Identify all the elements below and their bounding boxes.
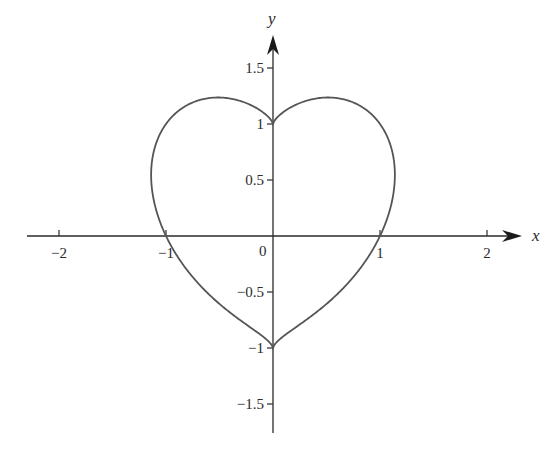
y-tick-label: −1.5	[237, 396, 264, 412]
axes: x y 0 −2−112 1.510.5−0.5−1−1.5	[27, 9, 540, 433]
x-ticks: −2−112	[51, 230, 491, 261]
y-tick-label: −1	[248, 340, 264, 356]
y-axis-label: y	[266, 9, 276, 28]
x-axis-label: x	[531, 226, 540, 245]
x-tick-label: 2	[483, 245, 491, 261]
y-tick-label: 1.5	[245, 60, 264, 76]
heart-curve-plot: x y 0 −2−112 1.510.5−0.5−1−1.5	[0, 0, 548, 450]
origin-label: 0	[259, 243, 267, 259]
y-tick-label: −0.5	[237, 284, 264, 300]
x-tick-label: 1	[376, 245, 384, 261]
x-tick-label: −2	[51, 245, 67, 261]
y-tick-label: 1	[257, 116, 265, 132]
y-tick-label: 0.5	[245, 172, 264, 188]
